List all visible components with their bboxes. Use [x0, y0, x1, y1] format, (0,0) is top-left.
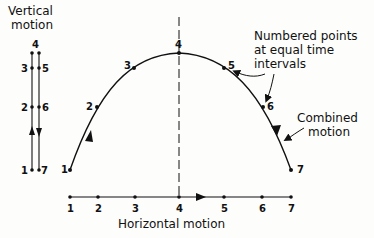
vertical-point-4: 4: [32, 39, 39, 50]
trajectory-label-1: 1: [61, 164, 68, 175]
right-arrow-icon: [196, 193, 206, 201]
up-arrow-icon: [29, 126, 35, 135]
combined-motion-label-line2: motion: [308, 125, 350, 139]
vertical-point-6: 6: [42, 102, 49, 113]
trajectory-label-3: 3: [124, 60, 131, 71]
vertical-point-5: 5: [42, 63, 49, 74]
numbered-points-annotation-line1: Numbered points: [254, 29, 358, 43]
vertical-motion-title-line2: motion: [11, 18, 53, 32]
vertical-point-2: 2: [21, 102, 28, 113]
trajectory-label-6: 6: [267, 101, 274, 112]
annotation-pointer-to-6: [267, 74, 274, 99]
horizontal-motion-component: 1 2 3 4 5 6 7: [67, 193, 295, 214]
trajectory-label-5: 5: [228, 60, 235, 71]
diagram-svg: Vertical motion 4 3 5 2 6 1 7: [0, 0, 374, 238]
trajectory-arrow-up-icon: [85, 130, 93, 142]
horizontal-point-3: 3: [132, 203, 139, 214]
annotation-pointer-combined: [287, 128, 304, 139]
combined-motion-label-line1: Combined: [297, 111, 358, 125]
vertical-point-7: 7: [41, 165, 48, 176]
down-arrow-icon: [36, 128, 42, 137]
horizontal-motion-label: Horizontal motion: [118, 217, 225, 231]
horizontal-point-6: 6: [259, 203, 266, 214]
numbered-points-annotation-line3: intervals: [254, 57, 306, 71]
horizontal-point-2: 2: [95, 203, 102, 214]
horizontal-point-7: 7: [288, 203, 295, 214]
annotation-pointer-to-5: [236, 72, 265, 76]
trajectory-label-7: 7: [297, 164, 304, 175]
numbered-points-annotation-line2: at equal time: [254, 43, 334, 57]
horizontal-point-4: 4: [176, 203, 183, 214]
horizontal-point-1: 1: [67, 203, 74, 214]
trajectory-label-4: 4: [175, 39, 182, 50]
vertical-motion-title-line1: Vertical: [8, 4, 53, 18]
horizontal-point-5: 5: [221, 203, 228, 214]
trajectory-label-2: 2: [86, 101, 93, 112]
projectile-motion-diagram: Vertical motion 4 3 5 2 6 1 7: [0, 0, 374, 238]
vertical-point-3: 3: [21, 63, 28, 74]
vertical-motion-component: 4 3 5 2 6 1 7: [21, 39, 49, 176]
vertical-point-1: 1: [21, 165, 28, 176]
